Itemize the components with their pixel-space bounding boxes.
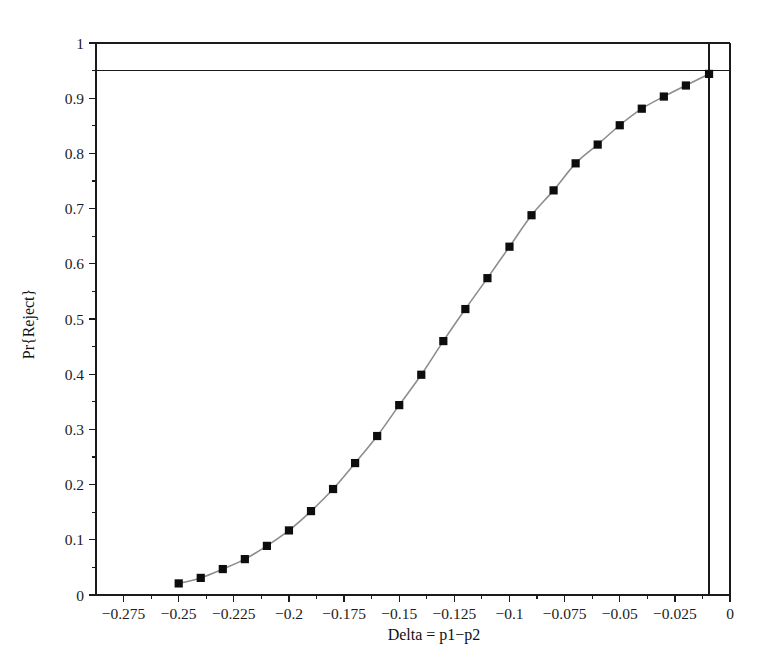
data-point-marker xyxy=(307,507,315,515)
y-tick-label-4: 0.4 xyxy=(65,366,85,383)
curve-group xyxy=(179,74,709,583)
y-tick-label-3: 0.3 xyxy=(65,421,85,438)
power-curve-line xyxy=(179,74,709,583)
chart-canvas: 00.10.20.30.40.50.60.70.80.91−0.275−0.25… xyxy=(0,0,768,670)
y-tick-label-7: 0.7 xyxy=(65,200,85,217)
data-point-marker xyxy=(505,243,513,251)
y-tick-label-1: 0.1 xyxy=(65,531,84,548)
y-tick-label-10: 1 xyxy=(76,35,84,52)
data-point-marker xyxy=(638,105,646,113)
data-point-marker xyxy=(461,305,469,313)
reference-lines-group xyxy=(96,43,730,595)
data-point-marker xyxy=(417,371,425,379)
x-tick-label-2: −0.225 xyxy=(212,605,256,622)
x-axis-title: Delta = p1−p2 xyxy=(388,626,481,644)
y-tick-label-5: 0.5 xyxy=(65,311,85,328)
x-tick-label-3: −0.2 xyxy=(275,605,303,622)
data-point-marker xyxy=(483,274,491,282)
y-tick-label-2: 0.2 xyxy=(65,476,84,493)
data-point-marker xyxy=(594,140,602,148)
y-tick-label-6: 0.6 xyxy=(65,255,85,272)
data-point-marker xyxy=(285,526,293,534)
data-point-marker xyxy=(241,555,249,563)
y-tick-label-0: 0 xyxy=(76,587,84,604)
data-point-marker xyxy=(705,70,713,78)
data-point-marker xyxy=(351,459,359,467)
x-tick-label-10: −0.025 xyxy=(653,605,697,622)
axis-titles-group: Delta = p1−p2 Pr{Reject} xyxy=(20,289,480,644)
data-point-marker xyxy=(395,401,403,409)
y-tick-label-8: 0.8 xyxy=(65,145,85,162)
data-point-marker xyxy=(527,211,535,219)
data-point-marker xyxy=(329,485,337,493)
x-tick-label-8: −0.075 xyxy=(543,605,587,622)
x-tick-label-4: −0.175 xyxy=(322,605,366,622)
x-tick-label-1: −0.25 xyxy=(161,605,197,622)
data-point-marker xyxy=(219,565,227,573)
x-tick-label-6: −0.125 xyxy=(433,605,477,622)
x-tick-label-0: −0.275 xyxy=(102,605,146,622)
data-point-marker xyxy=(197,574,205,582)
data-point-marker xyxy=(373,432,381,440)
y-axis-title: Pr{Reject} xyxy=(20,289,38,359)
data-point-marker xyxy=(616,121,624,129)
data-point-marker xyxy=(572,159,580,167)
data-point-marker xyxy=(660,92,668,100)
data-point-marker xyxy=(263,542,271,550)
x-tick-label-7: −0.1 xyxy=(495,605,523,622)
axes-group xyxy=(89,43,730,602)
x-tick-label-9: −0.05 xyxy=(602,605,638,622)
data-point-marker xyxy=(439,337,447,345)
data-point-marker xyxy=(175,579,183,587)
x-tick-label-5: −0.15 xyxy=(381,605,417,622)
x-tick-label-11: 0 xyxy=(726,605,734,622)
markers-group xyxy=(175,70,714,588)
data-point-marker xyxy=(682,81,690,89)
y-tick-label-9: 0.9 xyxy=(65,90,85,107)
tick-labels-group: 00.10.20.30.40.50.60.70.80.91−0.275−0.25… xyxy=(65,35,735,623)
data-point-marker xyxy=(549,186,557,194)
power-curve-figure: 00.10.20.30.40.50.60.70.80.91−0.275−0.25… xyxy=(0,0,768,670)
